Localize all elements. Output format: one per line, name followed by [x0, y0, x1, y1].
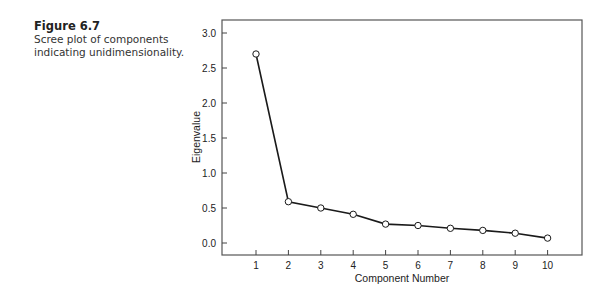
data-point-marker — [382, 221, 388, 227]
x-tick-label: 1 — [253, 260, 259, 271]
x-tick-label: 7 — [448, 260, 454, 271]
x-tick-label: 8 — [480, 260, 486, 271]
eigenvalue-series — [253, 51, 551, 242]
y-tick-label: 0.5 — [202, 203, 216, 214]
x-tick-label: 5 — [383, 260, 389, 271]
x-axis-label: Component Number — [355, 272, 450, 284]
y-tick-label: 0.0 — [202, 238, 216, 249]
data-point-marker — [480, 227, 486, 233]
x-tick-label: 4 — [350, 260, 356, 271]
x-axis-ticks: 12345678910 — [253, 250, 553, 271]
y-tick-label: 1.5 — [202, 133, 216, 144]
data-point-marker — [318, 205, 324, 211]
data-point-marker — [447, 225, 453, 231]
data-point-marker — [415, 222, 421, 228]
scree-plot: 0.00.51.01.52.02.53.0 12345678910 Compon… — [0, 0, 605, 295]
x-tick-label: 2 — [286, 260, 292, 271]
x-tick-label: 9 — [512, 260, 518, 271]
y-tick-label: 1.0 — [202, 168, 216, 179]
y-axis-label: Eigenvalue — [190, 111, 202, 163]
y-axis-ticks: 0.00.51.01.52.02.53.0 — [202, 28, 227, 249]
data-point-marker — [512, 230, 518, 236]
series-line — [256, 54, 548, 238]
x-tick-label: 6 — [415, 260, 421, 271]
y-tick-label: 3.0 — [202, 28, 216, 39]
plot-frame — [222, 20, 582, 255]
data-point-marker — [350, 211, 356, 217]
data-point-marker — [253, 51, 259, 57]
y-tick-label: 2.0 — [202, 98, 216, 109]
y-tick-label: 2.5 — [202, 63, 216, 74]
x-tick-label: 10 — [542, 260, 554, 271]
data-point-marker — [544, 235, 550, 241]
x-tick-label: 3 — [318, 260, 324, 271]
data-point-marker — [285, 199, 291, 205]
